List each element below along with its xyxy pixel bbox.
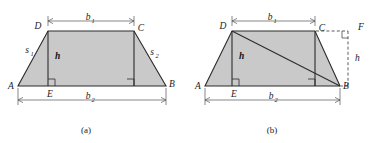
side-label-s2-sub-a: 2: [155, 52, 159, 59]
height-label-h-left-b: h: [239, 51, 244, 61]
side-label-s1-base-a: s: [25, 45, 29, 55]
dimension-label-b1-b: b 1: [268, 12, 277, 24]
side-label-s1-sub-a: 1: [30, 50, 33, 57]
vertex-label-d-b: D: [219, 21, 227, 31]
dimension-label-b1-base-a: b: [86, 12, 91, 22]
trapezoid-a-shape: [18, 31, 166, 86]
vertex-label-c-a: C: [138, 23, 145, 33]
panel-a: D C A B E h b 1 b 2 s 1 s: [7, 12, 175, 135]
vertex-label-f-b: F: [357, 22, 364, 32]
height-label-h-a: h: [55, 51, 60, 61]
figure-canvas: D C A B E h b 1 b 2 s 1 s: [0, 0, 374, 143]
height-label-h-right-b: h: [355, 53, 360, 63]
trapezoid-b-shape: [205, 31, 340, 86]
panel-caption-a: (a): [81, 125, 91, 135]
dimension-label-b2-base-a: b: [86, 91, 91, 101]
panel-caption-b: (b): [267, 125, 278, 135]
dimension-label-b1-base-b: b: [268, 12, 273, 22]
side-label-s2-a: s 2: [150, 47, 159, 59]
panel-b: D C A B E F h h b 1 b 2 (b): [194, 12, 364, 135]
dimension-label-b2-base-b: b: [269, 91, 274, 101]
right-angle-mark-f-b: [342, 31, 348, 38]
dimension-label-b2-b: b 2: [269, 91, 279, 103]
dimension-label-b1-a: b 1: [86, 12, 95, 24]
side-label-s2-base-a: s: [150, 47, 154, 57]
vertex-label-b-b: B: [343, 81, 349, 91]
dimension-label-b1-sub-b: 1: [273, 17, 276, 24]
vertex-label-d-a: D: [34, 21, 42, 31]
geometry-figure: D C A B E h b 1 b 2 s 1 s: [0, 0, 374, 143]
vertex-label-c-b: C: [319, 23, 326, 33]
side-label-s1-a: s 1: [25, 45, 33, 57]
vertex-label-b-a: B: [169, 79, 175, 89]
vertex-label-e-b: E: [230, 89, 237, 99]
dimension-label-b2-sub-a: 2: [91, 96, 95, 103]
dimension-label-b2-sub-b: 2: [274, 96, 278, 103]
dimension-label-b1-sub-a: 1: [91, 17, 94, 24]
vertex-label-e-a: E: [46, 89, 53, 99]
dimension-label-b2-a: b 2: [86, 91, 96, 103]
vertex-label-a-a: A: [7, 81, 14, 91]
vertex-label-a-b: A: [194, 81, 201, 91]
